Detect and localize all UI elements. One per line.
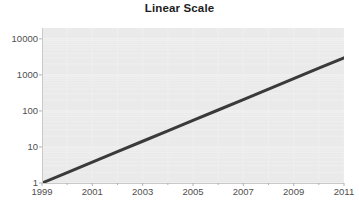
y-axis-tick-label: 1000 bbox=[2, 70, 38, 80]
x-axis-tick-labels: 1999200120032005200720092011 bbox=[0, 186, 359, 204]
x-axis-tick-label: 2003 bbox=[123, 186, 163, 197]
y-axis-tick-labels: 100001000100101 bbox=[0, 0, 38, 215]
plot-area bbox=[42, 28, 344, 183]
series-line-exponential-growth bbox=[42, 28, 344, 183]
x-axis-tick-label: 2011 bbox=[324, 186, 359, 197]
x-axis-tick-label: 1999 bbox=[22, 186, 62, 197]
x-axis-tick-label: 2007 bbox=[223, 186, 263, 197]
x-axis-tick-label: 2009 bbox=[274, 186, 314, 197]
chart-container: Linear Scale 100001000100101 19992001200… bbox=[0, 0, 359, 215]
chart-title: Linear Scale bbox=[0, 2, 359, 14]
x-axis-tick-label: 2005 bbox=[173, 186, 213, 197]
x-axis-tick-label: 2001 bbox=[72, 186, 112, 197]
y-axis-tick-label: 10 bbox=[2, 142, 38, 152]
y-axis-tick-label: 10000 bbox=[2, 34, 38, 44]
y-axis-tick-label: 100 bbox=[2, 106, 38, 116]
